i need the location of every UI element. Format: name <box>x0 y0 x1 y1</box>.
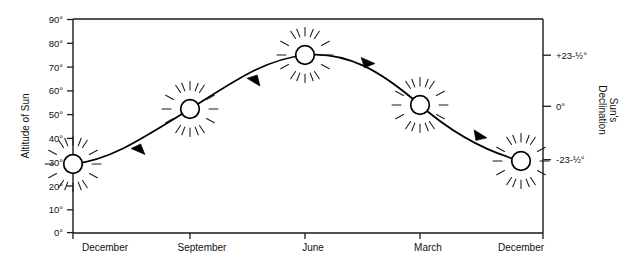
sun-disc-icon <box>411 96 430 115</box>
y2-tick-label: -23-½° <box>556 154 585 165</box>
x-axis-label-december-start: December <box>82 242 129 253</box>
y-tick-label: 0° <box>54 227 63 238</box>
y-tick-label: 90° <box>49 14 64 25</box>
y-axis-title-right-line2: Declination <box>597 85 608 134</box>
x-axis-label-september: September <box>178 242 228 253</box>
y-tick-label: 30° <box>49 157 64 168</box>
x-axis-label-march: March <box>414 242 442 253</box>
y-tick-label: 20° <box>49 181 64 192</box>
y-tick-label: 60° <box>49 85 64 96</box>
x-axis-label-june: June <box>302 242 324 253</box>
figure-background <box>0 0 620 268</box>
y2-tick-label: +23-½° <box>556 50 587 61</box>
y-tick-label: 50° <box>49 109 64 120</box>
sun-disc-icon <box>181 100 200 119</box>
y-axis-title-right-line1: Sun's <box>608 98 619 123</box>
sun-disc-icon <box>296 46 315 65</box>
x-axis-label-december-end: December <box>498 242 545 253</box>
sun-disc-icon <box>64 155 83 174</box>
y-tick-label: 70° <box>49 62 64 73</box>
y-tick-label: 80° <box>49 38 64 49</box>
y-tick-label: 10° <box>49 204 64 215</box>
y-axis-title-left: Altitude of Sun <box>20 93 31 158</box>
sun-altitude-diagram: 90° 80° 70° 60° 50° 40° 30° 20° 10° 0° A… <box>0 0 620 268</box>
sun-disc-icon <box>512 152 531 171</box>
y2-tick-label: 0° <box>556 101 565 112</box>
y-tick-label: 40° <box>49 133 64 144</box>
